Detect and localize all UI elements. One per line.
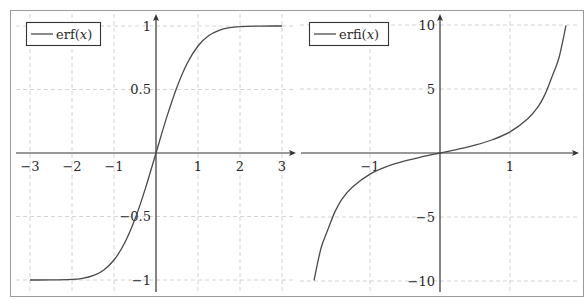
erf-x-tick: 3 [278, 159, 286, 174]
erfi-y-tick: 5 [427, 82, 435, 97]
erfi-plot: −1 1 10 5 −5 −10 erfi(x) [300, 14, 579, 292]
erfi-x-tick: −1 [360, 159, 379, 174]
erf-x-tick: −2 [62, 159, 81, 174]
erf-x-tick: −3 [20, 159, 39, 174]
erf-x-tick: 1 [194, 159, 202, 174]
erf-y-tick: 0.5 [130, 82, 151, 97]
erf-y-tick: 1 [143, 19, 151, 34]
erf-plot: −3 −2 −1 1 2 3 1 0.5 −0.5 −1 erf(x) [16, 14, 296, 292]
erf-y-tick: −1 [132, 273, 151, 288]
figure: −3 −2 −1 1 2 3 1 0.5 −0.5 −1 erf(x) [0, 0, 587, 300]
erfi-y-tick: −5 [416, 210, 435, 225]
erf-legend-label: erf(x) [56, 27, 92, 42]
erfi-x-tick: 1 [506, 159, 514, 174]
erf-y-tick: −0.5 [119, 209, 151, 224]
erfi-legend: erfi(x) [310, 23, 389, 46]
erf-legend: erf(x) [27, 23, 101, 46]
erf-x-tick: −1 [104, 159, 123, 174]
erfi-legend-label: erfi(x) [339, 27, 379, 42]
erfi-y-tick: −10 [408, 274, 435, 289]
erf-x-tick: 2 [236, 159, 244, 174]
erfi-y-tick: 10 [418, 18, 435, 33]
